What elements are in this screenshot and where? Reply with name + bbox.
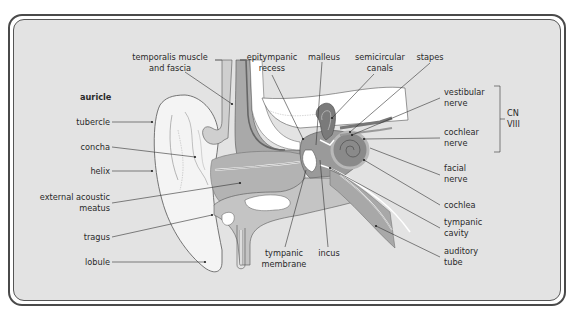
label-line-2: and fascia [120, 63, 220, 74]
label-line-1: CN [507, 108, 520, 119]
label-tubercle: tubercle [60, 117, 110, 128]
label-auditory-tube: auditory tube [444, 246, 478, 268]
label-line-2: tube [444, 257, 478, 268]
label-line-2: cavity [444, 228, 482, 239]
label-lobule: lobule [60, 257, 110, 268]
label-line-1: facial [444, 163, 467, 174]
label-epitympanic-recess: epitympanic recess [240, 52, 304, 74]
label-tympanic-cavity: tympanic cavity [444, 217, 482, 239]
label-tragus: tragus [60, 232, 110, 243]
label-line-2: nerve [444, 174, 467, 185]
label-line-1: external acoustic [20, 192, 110, 203]
label-line-2: meatus [20, 203, 110, 214]
label-semicircular-canals: semicircular canals [350, 52, 410, 74]
label-helix: helix [60, 166, 110, 177]
label-line-1: semicircular [350, 52, 410, 63]
label-line-1: cochlear [444, 127, 479, 138]
label-line-1: tympanic [444, 217, 482, 228]
label-incus: incus [314, 248, 344, 259]
cochlea-shape [332, 132, 368, 168]
label-line-1: epitympanic [240, 52, 304, 63]
label-malleus: malleus [302, 52, 346, 63]
label-stapes: stapes [412, 52, 448, 63]
label-vestibular-nerve: vestibular nerve [444, 87, 485, 109]
label-concha: concha [60, 142, 110, 153]
label-line-2: nerve [444, 138, 479, 149]
label-line-1: vestibular [444, 87, 485, 98]
label-temporalis-muscle-and-fascia: temporalis muscle and fascia [120, 52, 220, 74]
label-line-2: nerve [444, 98, 485, 109]
label-line-2: recess [240, 63, 304, 74]
label-line-2: membrane [256, 259, 312, 270]
label-line-1: tympanic [256, 248, 312, 259]
label-cn-viii: CN VIII [507, 108, 520, 130]
section-title-auricle: auricle [80, 92, 111, 103]
label-line-2: canals [350, 63, 410, 74]
label-facial-nerve: facial nerve [444, 163, 467, 185]
label-cochlear-nerve: cochlear nerve [444, 127, 479, 149]
label-line-2: VIII [507, 119, 520, 130]
label-line-1: temporalis muscle [120, 52, 220, 63]
label-cochlea: cochlea [444, 200, 476, 211]
ear-anatomy-illustration [0, 0, 575, 318]
label-line-1: auditory [444, 246, 478, 257]
label-tympanic-membrane: tympanic membrane [256, 248, 312, 270]
label-external-acoustic-meatus: external acoustic meatus [20, 192, 110, 214]
